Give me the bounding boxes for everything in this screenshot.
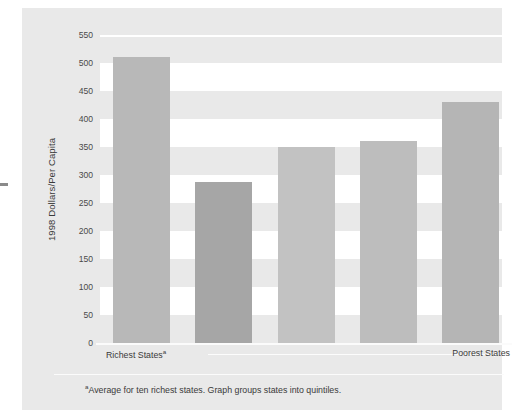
axis-baseline bbox=[96, 343, 512, 345]
left-margin bbox=[0, 0, 22, 418]
footnote-text: Average for ten richest states. Graph gr… bbox=[88, 385, 341, 395]
bar bbox=[442, 102, 499, 343]
x-axis-label-richest-text: Richest States bbox=[106, 350, 163, 360]
y-tick-label: 150 bbox=[79, 254, 93, 264]
y-tick-label: 250 bbox=[79, 198, 93, 208]
footnote-divider bbox=[54, 374, 504, 375]
x-axis-label-richest: Richest Statesa bbox=[106, 348, 166, 360]
y-tick-label: 100 bbox=[79, 282, 93, 292]
top-gridline bbox=[100, 35, 512, 37]
plot-area: 050100150200250300350400450500550 bbox=[100, 35, 512, 343]
y-tick-label: 450 bbox=[79, 86, 93, 96]
x-axis-label-richest-superscript: a bbox=[163, 348, 166, 355]
bar bbox=[195, 182, 252, 343]
bar bbox=[278, 147, 335, 343]
y-tick-label: 50 bbox=[83, 310, 93, 320]
y-tick-label: 500 bbox=[79, 58, 93, 68]
y-axis-title: 1998 Dollars/Per Capita bbox=[46, 115, 57, 265]
y-tick-label: 0 bbox=[88, 338, 93, 348]
y-tick-label: 200 bbox=[79, 226, 93, 236]
y-tick-label: 300 bbox=[79, 170, 93, 180]
bar bbox=[113, 57, 170, 343]
x-axis-label-poorest: Poorest States bbox=[452, 348, 510, 358]
bar-chart-figure: 1998 Dollars/Per Capita 0501001502002503… bbox=[0, 0, 514, 418]
footnote: aAverage for ten richest states. Graph g… bbox=[85, 383, 341, 395]
y-tick-label: 350 bbox=[79, 142, 93, 152]
bar bbox=[360, 141, 417, 343]
y-tick-label: 400 bbox=[79, 114, 93, 124]
chart-panel: 1998 Dollars/Per Capita 0501001502002503… bbox=[22, 8, 502, 410]
edge-tick-mark bbox=[0, 183, 8, 186]
x-axis-captions: Richest Statesa Poorest States bbox=[100, 348, 512, 364]
y-tick-label: 550 bbox=[79, 30, 93, 40]
